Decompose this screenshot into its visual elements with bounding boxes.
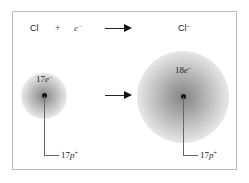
reactant-chlorine: Cl	[30, 23, 39, 33]
left-leader-horizontal	[44, 155, 59, 156]
right-leader-horizontal	[183, 155, 198, 156]
left-electron-label: 17e−	[36, 74, 52, 84]
right-leader-vertical	[183, 97, 184, 155]
right-proton-label: 17p+	[200, 150, 217, 160]
reaction-arrow-icon	[105, 28, 125, 29]
right-electron-label: 18e−	[175, 65, 191, 75]
left-leader-vertical	[44, 96, 45, 155]
plus-sign: +	[55, 23, 60, 33]
product-chloride-ion: Cl−	[178, 23, 190, 33]
transition-arrow-icon	[105, 95, 125, 96]
left-proton-label: 17p+	[61, 150, 78, 160]
electron-symbol: e−	[74, 23, 82, 33]
